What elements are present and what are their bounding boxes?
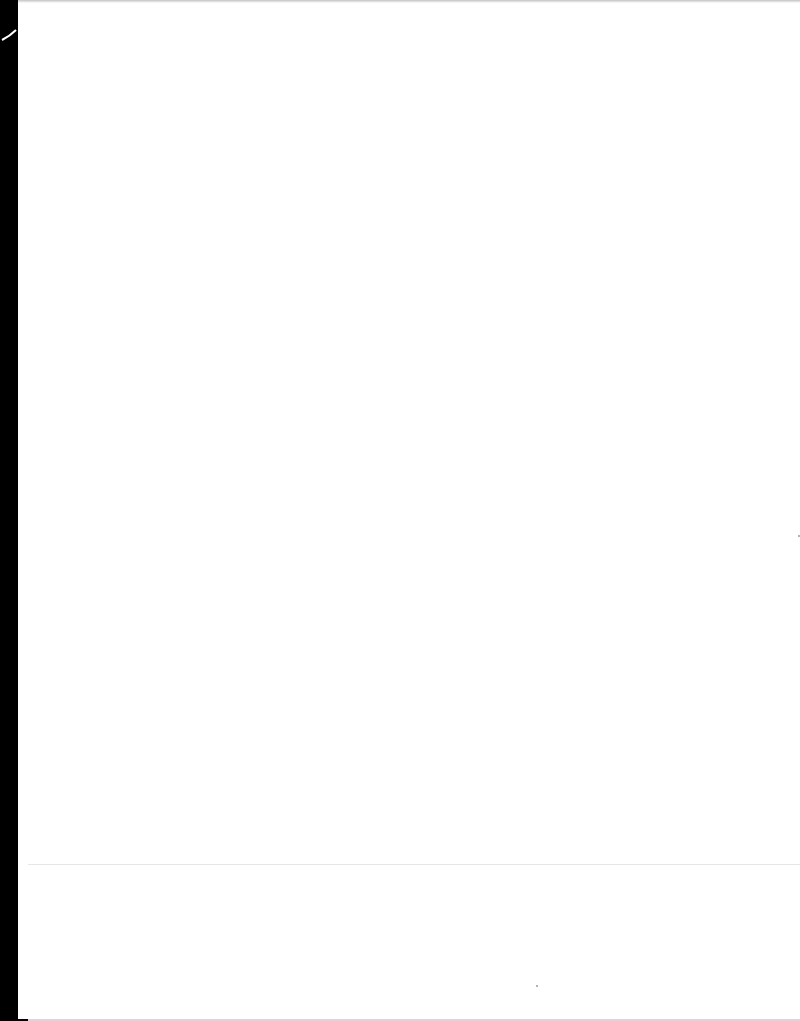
page-corner-curl-icon [0, 28, 18, 42]
blank-page [18, 2, 800, 1019]
fold-line [28, 864, 800, 865]
page-top-edge [18, 0, 800, 3]
scan-speck [536, 985, 538, 987]
